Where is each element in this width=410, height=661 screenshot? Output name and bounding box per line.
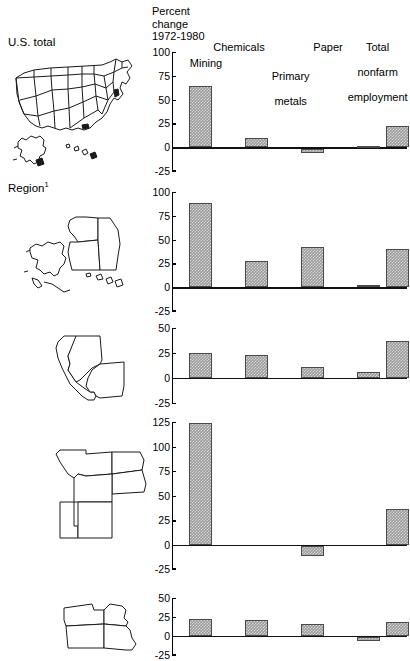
y-tick-neg25-chart4 (172, 569, 176, 570)
us-map-svg (10, 56, 140, 176)
bar-chemicals-chart1 (245, 138, 268, 148)
bar-primary-metals-chart2 (301, 247, 324, 287)
zero-baseline-chart3 (173, 378, 407, 379)
y-tick-50-chart2 (172, 240, 176, 241)
y-tick-50-chart4 (172, 496, 176, 497)
chart-region-west-north-central: 50 25 0 -25 (150, 596, 408, 660)
y-tick-50-chart3 (172, 328, 176, 329)
y-tick-label-0-chart1: 0 (142, 142, 170, 153)
bar-paper-chart1 (357, 146, 380, 148)
chart-region-mountain-plains: 125 100 75 50 25 0 -25 (150, 420, 408, 580)
y-tick-100-chart4 (172, 447, 176, 448)
y-tick-label-125-chart4: 125 (138, 417, 170, 428)
bar-mining-chart4 (189, 423, 212, 545)
y-tick-125-chart4 (172, 422, 176, 423)
y-tick-label-50-chart1: 50 (142, 95, 170, 106)
y-tick-label-25-chart4: 25 (138, 515, 170, 526)
region1-map-svg (12, 200, 142, 308)
west-north-central-map (36, 600, 146, 658)
y-tick-label-0-chart5: 0 (142, 631, 170, 642)
y-tick-label-neg25-chart3: -25 (140, 398, 170, 409)
y-tick-25-chart4 (172, 520, 176, 521)
y-tick-label-100-chart4: 100 (138, 442, 170, 453)
axis-title-line-2: change (152, 18, 188, 31)
y-tick-label-0-chart4: 0 (138, 540, 170, 551)
bar-primary-metals-chart3 (301, 367, 324, 378)
chart-region-pacific-northwest: 100 75 50 25 0 -25 (150, 190, 408, 318)
zero-baseline-chart4 (173, 545, 407, 546)
y-tick-100-chart1 (172, 52, 176, 53)
y-tick-neg25-chart3 (172, 403, 176, 404)
y-tick-label-50-chart5: 50 (142, 593, 170, 604)
y-tick-100-chart2 (172, 192, 176, 193)
y-tick-75-chart4 (172, 471, 176, 472)
y-tick-50-chart1 (172, 100, 176, 101)
y-tick-label-50-chart3: 50 (142, 323, 170, 334)
california-nevada-arizona-map (28, 330, 148, 418)
bar-paper-chart2 (357, 285, 380, 287)
y-tick-label-75-chart4: 75 (138, 466, 170, 477)
y-tick-25-chart5 (172, 617, 176, 618)
y-tick-label-0-chart2: 0 (142, 282, 170, 293)
y-tick-label-neg25-chart4: -25 (136, 564, 170, 575)
y-axis-line-chart3 (172, 328, 173, 404)
bar-total-nonfarm-chart3 (386, 341, 409, 378)
region-ca-nv-az-svg (28, 330, 148, 418)
mountain-plains-map (28, 440, 148, 550)
y-tick-neg25-chart5 (172, 655, 176, 656)
bar-primary-metals-chart1 (301, 149, 324, 154)
bar-chemicals-chart5 (245, 620, 268, 636)
y-tick-label-25-chart2: 25 (142, 258, 170, 269)
axis-title-line-1: Percent (152, 5, 190, 18)
y-tick-25-chart2 (172, 263, 176, 264)
y-tick-label-100-chart2: 100 (142, 187, 170, 198)
y-tick-75-chart2 (172, 216, 176, 217)
y-tick-50-chart5 (172, 598, 176, 599)
bar-total-nonfarm-chart4 (386, 509, 409, 545)
bar-chemicals-chart3 (245, 355, 268, 378)
y-tick-label-50-chart4: 50 (138, 491, 170, 502)
y-tick-neg25-chart2 (172, 311, 176, 312)
bar-primary-metals-chart5 (301, 624, 324, 636)
y-tick-label-100-chart1: 100 (142, 47, 170, 58)
y-tick-label-neg25-chart1: -25 (140, 166, 170, 177)
bar-paper-chart3 (357, 372, 380, 378)
chart-region-ca-nv-az: 50 25 0 -25 (150, 326, 408, 420)
y-tick-label-neg25-chart5: -25 (140, 650, 170, 661)
row-label-region-footnote: 1 (44, 180, 48, 189)
y-tick-label-neg25-chart2: -25 (140, 306, 170, 317)
y-tick-label-75-chart2: 75 (142, 211, 170, 222)
region-west-north-central-svg (36, 600, 146, 658)
bar-paper-chart5 (357, 637, 380, 641)
y-tick-label-75-chart1: 75 (142, 71, 170, 82)
bar-mining-chart5 (189, 619, 212, 636)
y-axis-line-chart2 (172, 192, 173, 311)
y-axis-line-chart1 (172, 52, 173, 171)
bar-total-nonfarm-chart2 (386, 249, 409, 287)
axis-title-line-3: 1972-1980 (152, 30, 205, 43)
bar-primary-metals-chart4 (301, 546, 324, 556)
zero-baseline-chart2 (173, 287, 407, 288)
y-tick-75-chart1 (172, 76, 176, 77)
y-tick-label-25-chart1: 25 (142, 118, 170, 129)
bar-total-nonfarm-chart5 (386, 622, 409, 636)
region-mountain-plains-svg (28, 440, 148, 550)
chart-us-total: 100 75 50 25 0 -25 (150, 50, 408, 178)
y-axis-line-chart5 (172, 598, 173, 655)
row-label-region-text: Region (8, 182, 44, 194)
bar-mining-chart3 (189, 353, 212, 378)
bar-mining-chart2 (189, 203, 212, 287)
bar-total-nonfarm-chart1 (386, 126, 409, 147)
united-states-map (10, 56, 140, 176)
y-tick-label-0-chart3: 0 (142, 373, 170, 384)
bar-chemicals-chart2 (245, 261, 268, 288)
row-label-us-total: U.S. total (8, 36, 55, 49)
y-tick-label-50-chart2: 50 (142, 235, 170, 246)
row-label-region: Region1 (8, 182, 49, 195)
figure-page: Percent change 1972-1980 Mining Chemical… (0, 0, 410, 661)
y-tick-label-25-chart5: 25 (142, 612, 170, 623)
y-tick-25-chart1 (172, 123, 176, 124)
y-tick-label-25-chart3: 25 (142, 348, 170, 359)
y-tick-neg25-chart1 (172, 171, 176, 172)
pacific-northwest-alaska-hawaii-map (12, 200, 142, 308)
